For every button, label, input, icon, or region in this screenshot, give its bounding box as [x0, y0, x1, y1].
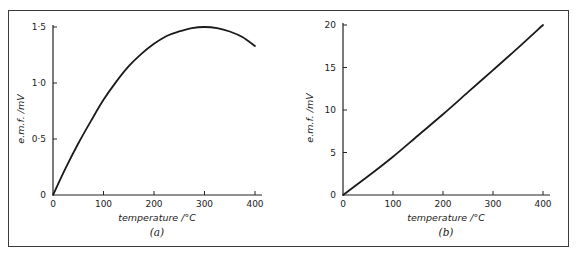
x-tick-label: 0: [50, 199, 56, 209]
x-axis-title: temperature /°C: [407, 212, 485, 223]
emf-curve: [343, 25, 543, 195]
x-tick-label: 400: [246, 199, 263, 209]
x-tick-label: 100: [384, 199, 401, 209]
y-tick-label: 0: [330, 190, 336, 200]
x-tick-label: 200: [145, 199, 162, 209]
x-tick-label: 400: [534, 199, 551, 209]
chart-a: 010020030040000·51·01·5temperature /°Ce.…: [15, 22, 264, 238]
y-axis-title: e.m.f. /mV: [15, 93, 26, 144]
x-axis-title: temperature /°C: [118, 212, 196, 223]
chart-b: 010020030040005101520temperature /°Ce.m.…: [304, 20, 552, 238]
panel-caption: (a): [150, 226, 164, 238]
y-tick-label: 5: [330, 148, 336, 158]
x-tick-label: 300: [484, 199, 501, 209]
y-tick-label: 0·5: [32, 134, 46, 144]
x-tick-label: 100: [95, 199, 112, 209]
x-tick-label: 300: [196, 199, 213, 209]
y-tick-label: 15: [325, 63, 336, 73]
y-tick-label: 20: [325, 20, 337, 30]
x-tick-label: 200: [434, 199, 451, 209]
y-tick-label: 10: [325, 105, 337, 115]
emf-curve: [53, 27, 255, 195]
y-tick-label: 1·5: [32, 22, 46, 32]
y-axis-title: e.m.f. /mV: [304, 92, 315, 143]
panel-caption: (b): [439, 226, 454, 238]
y-tick-label: 0: [40, 190, 46, 200]
figure-canvas: 010020030040000·51·01·5temperature /°Ce.…: [0, 0, 576, 253]
y-tick-label: 1·0: [32, 78, 47, 88]
x-tick-label: 0: [340, 199, 346, 209]
